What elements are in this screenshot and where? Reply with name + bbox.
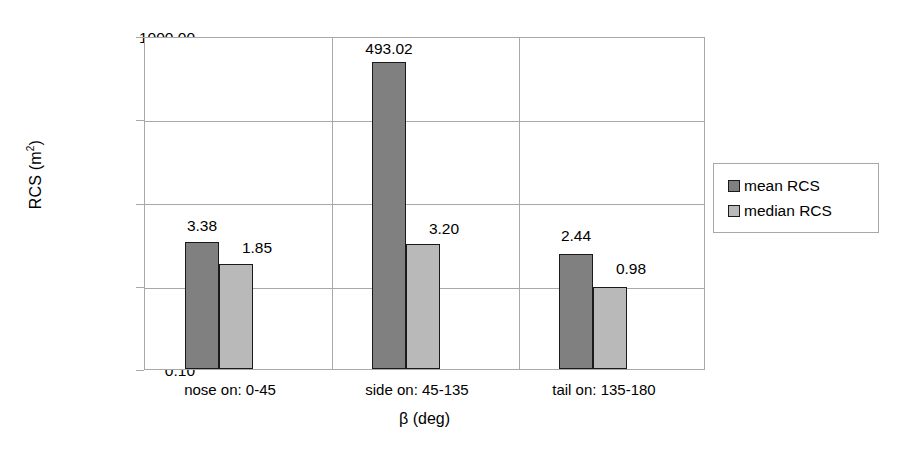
bar-median-side-on[interactable] [406,244,440,369]
bar-median-tail-on[interactable] [593,287,627,369]
y-tick-mark-0-1 [136,370,144,371]
chart-figure: RCS (m2) 1000.00 100.00 10.00 1.00 0.10 … [0,0,908,457]
y-tick-mark-1 [136,287,144,288]
bar-mean-nose-on[interactable] [185,242,219,369]
gridline-10 [145,204,704,205]
legend-item-median-rcs[interactable]: median RCS [728,198,878,223]
x-category-label-tail-on: tail on: 135-180 [524,382,684,398]
gridline-100 [145,121,704,122]
bar-label-mean-side-on: 493.02 [351,41,427,57]
chart-legend: mean RCS median RCS [713,163,879,233]
y-tick-mark-1000 [136,37,144,38]
bar-mean-side-on[interactable] [372,62,406,369]
legend-label-mean-rcs: mean RCS [744,178,820,194]
legend-swatch-median-icon [728,205,740,217]
x-category-label-side-on: side on: 45-135 [337,382,497,398]
y-axis-title-exponent: 2 [25,146,36,152]
bar-label-median-nose-on: 1.85 [221,240,293,256]
category-separator-2 [519,38,520,369]
y-axis-title: RCS (m2) [25,95,44,255]
legend-swatch-mean-icon [728,180,740,192]
x-axis-title: β (deg) [144,410,705,428]
category-separator-1 [332,38,333,369]
legend-label-median-rcs: median RCS [744,203,832,219]
bar-label-median-side-on: 3.20 [408,221,480,237]
y-tick-mark-10 [136,204,144,205]
y-axis-title-tail: ) [27,140,44,146]
bar-label-mean-nose-on: 3.38 [166,218,238,234]
bar-median-nose-on[interactable] [219,264,253,369]
y-axis-title-base: RCS (m [27,151,44,209]
bar-mean-tail-on[interactable] [559,254,593,369]
bar-label-median-tail-on: 0.98 [595,261,667,277]
bar-label-mean-tail-on: 2.44 [540,228,612,244]
plot-area: 3.38 1.85 493.02 3.20 2.44 0.98 [144,37,705,370]
y-tick-mark-100 [136,120,144,121]
legend-item-mean-rcs[interactable]: mean RCS [728,173,878,198]
x-category-label-nose-on: nose on: 0-45 [150,382,310,398]
